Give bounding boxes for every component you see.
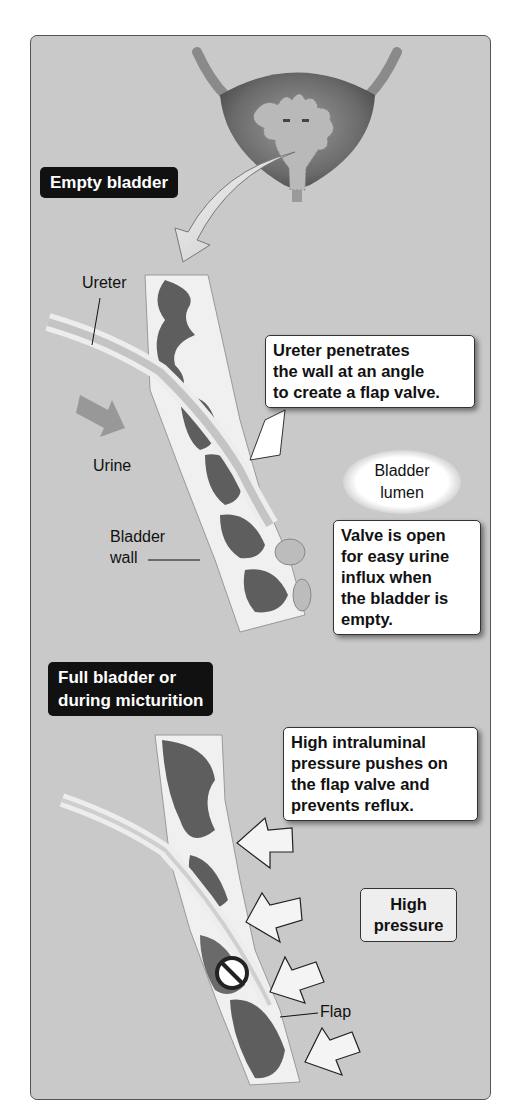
callout-tail bbox=[250, 410, 285, 460]
pressure-arrow-icon bbox=[305, 1028, 360, 1075]
label-bladder-wall: Bladder wall bbox=[110, 526, 165, 568]
label-bladder-lumen: Bladder lumen bbox=[343, 460, 461, 504]
pressure-arrow-icon bbox=[237, 818, 293, 868]
callout-angle: Ureter penetrates the wall at an angle t… bbox=[265, 335, 475, 408]
flap-leader bbox=[280, 1013, 318, 1017]
label-flap: Flap bbox=[320, 1001, 351, 1023]
tag-empty-bladder: Empty bladder bbox=[40, 167, 178, 198]
pressure-arrow-icon bbox=[270, 957, 324, 1003]
callout-pressure: High intraluminal pressure pushes on the… bbox=[283, 727, 478, 821]
bladder-icon bbox=[197, 52, 397, 202]
callout-valve-open: Valve is open for easy urine influx when… bbox=[333, 520, 481, 635]
tag-full-bladder: Full bladder or during micturition bbox=[48, 662, 213, 716]
label-urine: Urine bbox=[93, 455, 131, 477]
pressure-arrow-icon bbox=[246, 893, 302, 942]
label-ureter: Ureter bbox=[82, 272, 126, 294]
urine-flow-icon bbox=[76, 395, 125, 437]
label-high-pressure: High pressure bbox=[360, 888, 457, 942]
prohibition-icon bbox=[217, 958, 247, 988]
